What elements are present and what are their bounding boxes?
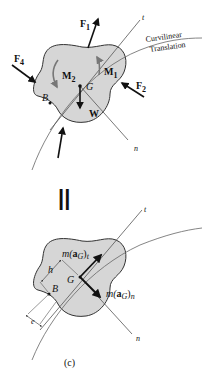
equivalence-sign: || xyxy=(58,185,70,210)
g-label: G xyxy=(86,81,93,92)
n-axis-label: n xyxy=(134,144,138,153)
normal-inertia-label: m(aG)n xyxy=(106,288,135,301)
free-body-diagram: t n Curvilinear Translation G B W F1 F2 … xyxy=(12,13,202,170)
point-b xyxy=(49,102,52,105)
b-label: B xyxy=(42,92,48,103)
figure-caption: (c) xyxy=(64,357,75,369)
t-axis-label: t xyxy=(142,13,145,22)
e-dimension-label: e xyxy=(31,317,35,326)
force-f4-label: F4 xyxy=(14,53,24,67)
kinetics-diagram: t n Curvilinear Translation G B W F1 F2 … xyxy=(0,0,209,372)
kinetic-n-axis-label: n xyxy=(136,334,140,343)
kinetic-diagram: t n G B m(aG)t m(aG)n h e xyxy=(27,205,202,360)
kinetic-t-axis-label: t xyxy=(144,205,147,214)
weight-label: W xyxy=(89,108,99,119)
rigid-body-shape xyxy=(34,45,126,123)
force-bottom-arrow xyxy=(58,128,63,158)
force-f2-label: F2 xyxy=(136,80,146,94)
kinetic-b-label: B xyxy=(52,283,58,294)
e-dimension-extension-b xyxy=(28,294,49,314)
h-dimension-label: h xyxy=(48,264,53,275)
force-f4-arrow xyxy=(12,65,35,82)
force-f1-label: F1 xyxy=(80,18,90,32)
kinetic-g-label: G xyxy=(67,274,74,285)
